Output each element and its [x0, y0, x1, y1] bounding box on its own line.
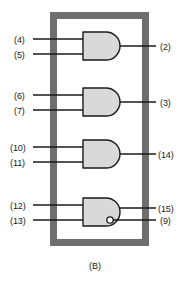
pin-label-input-gate-1-1: (4) [14, 36, 25, 45]
logic-gate-figure: (4)(5)(2)(6)(7)(3)(10)(11)(14)(12)(13)(1… [0, 0, 190, 289]
figure-caption: (B) [0, 262, 190, 271]
pin-label-input-gate-2-2: (7) [14, 107, 25, 116]
pin-label-output-gate-2-1: (3) [160, 99, 171, 108]
and-gate-body-gate-4 [83, 198, 120, 226]
and-gate-body-gate-1 [83, 32, 120, 60]
inversion-bubble-gate-4 [107, 217, 113, 223]
pin-label-output-gate-1-1: (2) [160, 43, 171, 52]
pin-label-input-gate-1-2: (5) [14, 51, 25, 60]
pin-label-output-gate-4-1: (15) [158, 205, 174, 214]
and-gate-body-gate-2 [83, 88, 120, 116]
pin-label-input-gate-4-1: (12) [10, 202, 26, 211]
pin-label-output-gate-3-1: (14) [158, 151, 174, 160]
pin-label-input-gate-3-2: (11) [10, 159, 25, 168]
pin-label-input-gate-3-1: (10) [10, 144, 26, 153]
pin-label-input-gate-4-2: (13) [10, 217, 26, 226]
pin-label-input-gate-2-1: (6) [14, 92, 25, 101]
and-gate-body-gate-3 [83, 140, 120, 168]
pin-label-output-gate-4-2: (9) [160, 217, 171, 226]
